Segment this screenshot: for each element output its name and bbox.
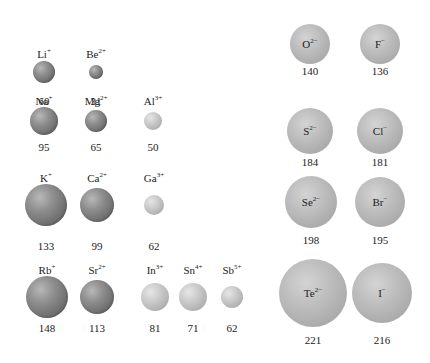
ion-label: Be2+ — [86, 48, 106, 60]
ion-label: In3+ — [147, 264, 164, 276]
ion-charge: 2− — [313, 195, 320, 203]
ion-charge: 2− — [309, 124, 316, 132]
ion-charge: − — [382, 286, 386, 294]
ion-sphere — [89, 65, 103, 79]
ion-label: K+ — [40, 172, 52, 184]
ion-sphere — [80, 280, 114, 314]
ion-label: Te2− — [304, 287, 322, 299]
ion-charge: − — [383, 124, 387, 132]
ion-charge: 2+ — [98, 263, 105, 271]
element-symbol: Sb — [222, 264, 234, 276]
ion-charge: + — [48, 171, 52, 179]
ion-sphere — [80, 188, 114, 222]
ion-sphere — [221, 286, 243, 308]
element-symbol: In — [147, 264, 156, 276]
ion-label: Cl− — [373, 125, 387, 137]
ion-radius-value: 50 — [148, 141, 159, 153]
element-symbol: Ga — [144, 172, 157, 184]
element-symbol: Rb — [39, 264, 52, 276]
ion-sphere — [144, 195, 164, 215]
ion-label: Se2− — [302, 196, 320, 208]
element-symbol: Br — [373, 196, 384, 208]
ion-radius-value: 221 — [305, 334, 322, 346]
ion-charge: 3+ — [156, 263, 163, 271]
ion-charge: + — [48, 94, 52, 102]
ion-label: I− — [378, 287, 386, 299]
ion-radius-value: 216 — [374, 334, 391, 346]
ion-label: Na+ — [36, 95, 53, 107]
ion-label: Rb+ — [39, 264, 56, 276]
ion-radius-value: 71 — [188, 322, 199, 334]
ion-charge: + — [51, 263, 55, 271]
ion-radius-value: 65 — [91, 141, 102, 153]
ion-charge: − — [381, 37, 385, 45]
ion-label: Sb5+ — [222, 264, 241, 276]
element-symbol: Sr — [88, 264, 98, 276]
ion-label: F− — [375, 38, 385, 50]
element-symbol: Al — [144, 95, 155, 107]
ion-sphere — [85, 110, 107, 132]
element-symbol: Sn — [183, 264, 195, 276]
ion-sphere — [33, 61, 55, 83]
ion-radius-value: 181 — [372, 156, 389, 168]
ion-charge: 4+ — [195, 263, 202, 271]
ion-charge: 3+ — [157, 171, 164, 179]
ion-radius-value: 148 — [39, 322, 56, 334]
element-symbol: O — [302, 38, 310, 50]
ion-charge: − — [384, 195, 388, 203]
ion-radius-value: 140 — [302, 65, 319, 77]
ion-sphere — [30, 107, 58, 135]
ion-radius-value: 136 — [372, 65, 389, 77]
ion-label: Sr2+ — [88, 264, 105, 276]
element-symbol: Be — [86, 48, 98, 60]
element-symbol: K — [40, 172, 48, 184]
element-symbol: Se — [302, 196, 313, 208]
element-symbol: Cl — [373, 125, 383, 137]
ion-label: Sn4+ — [183, 264, 202, 276]
ion-radius-value: 113 — [89, 322, 105, 334]
ion-charge: 5+ — [234, 263, 241, 271]
ion-sphere — [26, 276, 68, 318]
ion-charge: 2+ — [100, 94, 107, 102]
ion-radius-value: 95 — [39, 141, 50, 153]
ion-sphere — [25, 184, 67, 226]
ion-label: Al3+ — [144, 95, 162, 107]
element-symbol: Te — [304, 287, 315, 299]
ion-radius-value: 184 — [302, 156, 319, 168]
ion-charge: 3+ — [155, 94, 162, 102]
ion-radius-value: 133 — [38, 240, 55, 252]
ion-charge: 2+ — [98, 47, 105, 55]
element-symbol: Ca — [87, 172, 99, 184]
ion-label: Mg2+ — [85, 95, 108, 107]
ion-radius-value: 99 — [92, 240, 103, 252]
ion-charge: 2− — [315, 286, 322, 294]
ion-sphere — [141, 283, 169, 311]
element-symbol: Mg — [85, 95, 100, 107]
ion-label: Ga3+ — [144, 172, 164, 184]
element-symbol: Na — [36, 95, 49, 107]
ion-radius-value: 198 — [303, 234, 320, 246]
ion-radius-value: 195 — [372, 234, 389, 246]
ion-charge: 2+ — [99, 171, 106, 179]
ion-radius-value: 81 — [150, 322, 161, 334]
ion-radius-value: 62 — [149, 240, 160, 252]
ion-charge: + — [47, 47, 51, 55]
ion-label: S2− — [303, 125, 317, 137]
ion-label: Li+ — [37, 48, 51, 60]
ion-sphere — [144, 112, 162, 130]
ion-sphere — [179, 283, 207, 311]
ion-charge: 2− — [310, 37, 317, 45]
ion-label: Br− — [373, 196, 388, 208]
ion-radius-value: 62 — [227, 322, 238, 334]
ion-label: Ca2+ — [87, 172, 107, 184]
ion-label: O2− — [302, 38, 317, 50]
element-symbol: Li — [37, 48, 47, 60]
